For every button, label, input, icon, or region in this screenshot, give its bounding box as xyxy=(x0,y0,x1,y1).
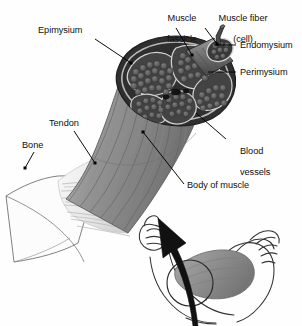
label-tendon: Tendon xyxy=(49,118,79,128)
label-muscle-fascicle-line1: Muscle xyxy=(168,13,197,23)
tendon-leader xyxy=(74,131,95,163)
label-bone: Bone xyxy=(22,140,43,150)
label-body-of-muscle: Body of muscle xyxy=(187,180,249,190)
label-epimysium: Epimysium xyxy=(38,25,82,35)
label-muscle-fiber-line1: Muscle fiber xyxy=(219,13,268,23)
label-endomysium: Endomysium xyxy=(240,40,293,50)
bone-leader xyxy=(25,152,34,168)
epimysium-leader xyxy=(95,39,131,63)
label-muscle-fascicle-line2: fascicle xyxy=(167,34,197,44)
label-muscle-fascicle: Muscle fascicle xyxy=(148,3,206,55)
label-perimysium: Perimysium xyxy=(240,67,287,77)
figure-canvas: Epimysium Muscle fascicle Muscle fiber (… xyxy=(0,0,302,326)
label-blood-vessels-line2: vessels xyxy=(240,167,270,177)
label-blood-vessels-line1: Blood xyxy=(240,146,263,156)
